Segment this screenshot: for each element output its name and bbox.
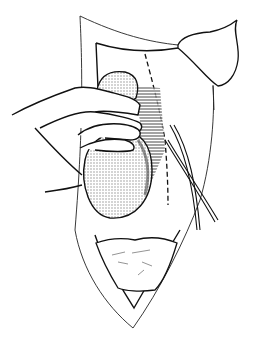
- retracted-skin-flap: [178, 20, 238, 86]
- vessel-bundle: [165, 125, 218, 230]
- bowel-loops: [96, 238, 177, 291]
- surgical-illustration: [0, 0, 255, 346]
- illustration-canvas: [0, 0, 255, 346]
